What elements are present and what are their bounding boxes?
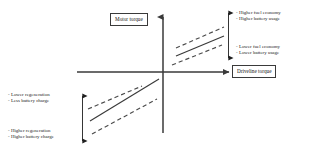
- q1-upper-bound-curve: [176, 27, 224, 48]
- annotation-line: - Less battery charge: [8, 98, 50, 104]
- annotation-line: - Lower battery usage: [236, 50, 280, 56]
- annotation-bottom-right: - Lower fuel economy - Lower battery usa…: [236, 44, 280, 56]
- annotation-middle-left: - Lower regeneration - Less battery char…: [8, 92, 50, 104]
- torque-map-diagram: Motor torque Driveline torque - Higher f…: [0, 0, 312, 154]
- q1-nominal-curve: [176, 36, 224, 56]
- annotation-line: - Higher battery charge: [8, 134, 54, 140]
- annotation-line: - Higher battery usage: [236, 16, 281, 22]
- motor-torque-axis-label: Motor torque: [110, 13, 148, 26]
- driveline-torque-axis-label: Driveline torque: [232, 65, 276, 78]
- q3-nominal-curve: [90, 79, 159, 121]
- annotation-top-right: - Higher fuel economy - Higher battery u…: [236, 10, 281, 22]
- q3-lower-bound-curve: [92, 99, 157, 134]
- annotation-bottom-left: - Higher regeneration - Higher battery c…: [8, 128, 54, 140]
